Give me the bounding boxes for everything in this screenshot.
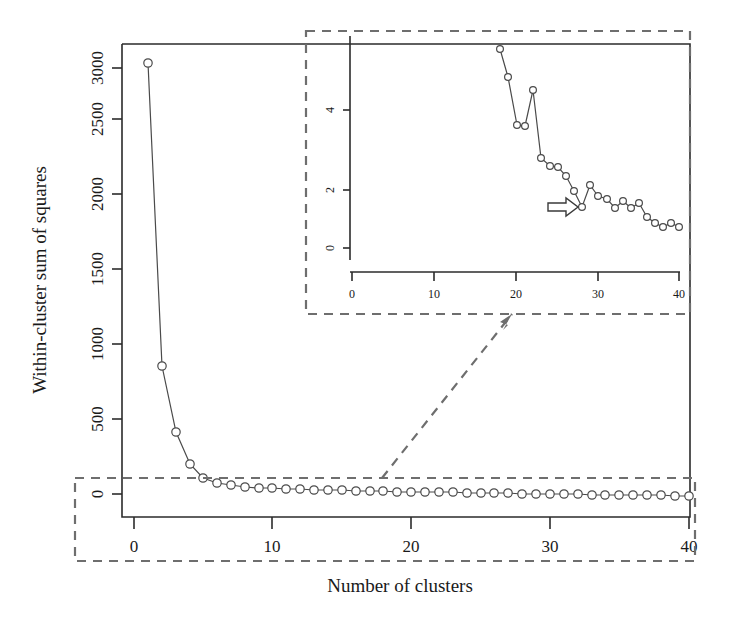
inset-series-line bbox=[500, 49, 679, 227]
inset-ytick-4: 4 bbox=[323, 107, 337, 113]
main-ytick-500: 500 bbox=[88, 406, 107, 432]
main-ytick-2500: 2500 bbox=[88, 102, 107, 136]
inset-y-axis: 0 2 4 bbox=[323, 36, 350, 260]
inset-xtick-0: 0 bbox=[349, 287, 355, 301]
main-xtick-10: 10 bbox=[264, 537, 281, 556]
main-series-points bbox=[144, 59, 693, 500]
main-ytick-1000: 1000 bbox=[88, 327, 107, 361]
inset-xtick-40: 40 bbox=[673, 287, 685, 301]
main-ytick-3000: 3000 bbox=[88, 51, 107, 85]
elbow-annotation-arrow-icon bbox=[548, 198, 578, 216]
y-axis-label: Within-cluster sum of squares bbox=[29, 166, 50, 394]
inset-xtick-20: 20 bbox=[510, 287, 522, 301]
main-plot: 0 500 1000 1500 2000 2500 3000 0 10 20 3… bbox=[29, 44, 698, 596]
inset-series bbox=[497, 46, 683, 231]
main-ytick-2000: 2000 bbox=[88, 177, 107, 211]
main-x-axis: 0 10 20 30 40 bbox=[130, 517, 698, 556]
main-xtick-20: 20 bbox=[403, 537, 420, 556]
zoom-connector-arrow bbox=[382, 314, 512, 478]
main-xtick-30: 30 bbox=[542, 537, 559, 556]
inset-xtick-10: 10 bbox=[428, 287, 440, 301]
main-ytick-1500: 1500 bbox=[88, 252, 107, 286]
x-axis-label: Number of clusters bbox=[327, 575, 473, 596]
main-xtick-0: 0 bbox=[130, 537, 139, 556]
main-series-line bbox=[148, 63, 689, 496]
inset-plot: 0 2 4 0 10 20 30 40 bbox=[323, 36, 685, 301]
main-y-axis: 0 500 1000 1500 2000 2500 3000 bbox=[88, 51, 122, 498]
inset-series-points bbox=[497, 46, 683, 231]
elbow-plot-figure: 0 500 1000 1500 2000 2500 3000 0 10 20 3… bbox=[0, 0, 740, 625]
inset-ytick-0: 0 bbox=[323, 245, 337, 251]
inset-x-axis: 0 10 20 30 40 bbox=[349, 272, 685, 301]
inset-ytick-2: 2 bbox=[323, 187, 337, 193]
main-series bbox=[144, 59, 693, 500]
figure-canvas: 0 500 1000 1500 2000 2500 3000 0 10 20 3… bbox=[0, 0, 740, 625]
main-ytick-0: 0 bbox=[88, 490, 107, 499]
inset-xtick-30: 30 bbox=[592, 287, 604, 301]
